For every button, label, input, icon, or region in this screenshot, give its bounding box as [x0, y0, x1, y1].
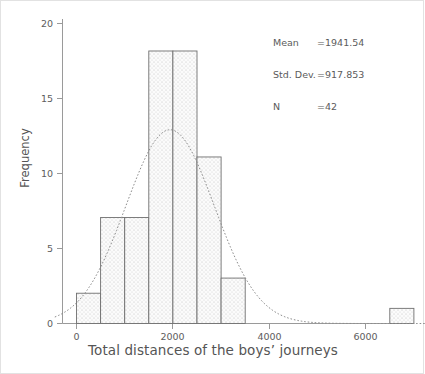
bar-1000-1500 [125, 218, 149, 324]
stats-mean-equals: = [317, 38, 325, 49]
stats-row-mean: Mean = 1941.54 [273, 38, 364, 49]
x-axis-ticks [77, 324, 366, 330]
stats-row-stddev: Std. Dev. = 917.853 [273, 70, 364, 81]
stats-n-value: 42 [325, 102, 337, 113]
bar-0-500 [77, 293, 101, 323]
stats-n-label: N [273, 102, 317, 113]
stats-mean-label: Mean [273, 38, 317, 49]
y-tick-label-20: 20 [29, 18, 53, 29]
x-tick-label-4000: 4000 [249, 331, 290, 342]
x-tick-label-0: 0 [56, 331, 97, 342]
stats-row-n: N = 42 [273, 102, 364, 113]
stats-stddev-value: 917.853 [325, 70, 364, 81]
bar-2000-2500 [173, 51, 197, 324]
bar-2500-3000 [197, 157, 221, 324]
stats-n-equals: = [317, 102, 325, 113]
bar-1500-2000 [149, 51, 173, 324]
y-axis-title: Frequency [18, 98, 32, 218]
bar-500-1000 [101, 218, 125, 324]
y-tick-label-5: 5 [29, 243, 53, 254]
statistics-annotation: Mean = 1941.54 Std. Dev. = 917.853 N = 4… [273, 17, 364, 134]
x-tick-label-2000: 2000 [152, 331, 193, 342]
y-tick-label-10: 10 [29, 168, 53, 179]
y-tick-label-15: 15 [29, 93, 53, 104]
stats-stddev-equals: = [317, 70, 325, 81]
stats-mean-value: 1941.54 [325, 38, 364, 49]
x-tick-label-6000: 6000 [345, 331, 386, 342]
y-axis-ticks [57, 24, 63, 324]
bar-3000-3500 [221, 278, 245, 323]
y-tick-label-0: 0 [29, 318, 53, 329]
bar-6500-7000 [390, 308, 414, 323]
stats-stddev-label: Std. Dev. [273, 70, 317, 81]
x-axis-title: Total distances of the boys’ journeys [1, 342, 425, 358]
